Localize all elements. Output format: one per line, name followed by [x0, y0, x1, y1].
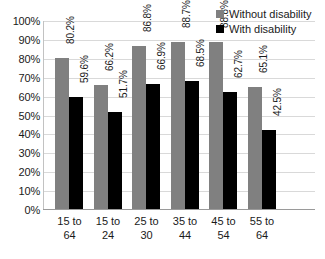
bar-value-label: 66.2%	[105, 43, 115, 71]
legend-label: With disability	[229, 24, 296, 35]
bar-value-label: 68.5%	[196, 39, 206, 67]
bar-value-label: 42.5%	[273, 88, 283, 116]
legend-swatch-icon	[216, 10, 224, 18]
bar: 66.2%	[94, 85, 108, 210]
bar: 59.6%	[69, 97, 83, 210]
x-axis: 15 to6415 to2425 to3035 to4445 to5455 to…	[43, 214, 315, 246]
bar-group: 66.2%51.7%	[94, 21, 123, 210]
bar: 62.7%	[223, 92, 237, 211]
y-tick-label: 80%	[0, 54, 40, 65]
legend-swatch-icon	[216, 25, 224, 33]
x-tick-label-line: 64	[239, 228, 285, 242]
bar-value-label: 80.2%	[66, 17, 76, 45]
bar: 65.1%	[248, 87, 262, 210]
y-tick-label: 90%	[0, 35, 40, 46]
y-tick-label: 0%	[0, 205, 40, 216]
bar: 51.7%	[108, 112, 122, 210]
bar: 80.2%	[55, 58, 69, 210]
bar-value-label: 62.7%	[234, 50, 244, 78]
bar-value-label: 86.8%	[143, 4, 153, 32]
legend-label: Without disability	[229, 9, 312, 20]
y-axis: 100%90%80%70%60%50%40%30%20%10%0%	[0, 21, 40, 210]
bar-group: 88.7%68.5%	[171, 21, 200, 210]
x-tick-label: 55 to64	[239, 214, 285, 242]
bar-value-label: 66.9%	[157, 42, 167, 70]
x-tick-label-line: 55 to	[239, 214, 285, 228]
bar-value-label: 51.7%	[119, 70, 129, 98]
y-tick-label: 40%	[0, 129, 40, 140]
caption-strip	[0, 251, 325, 259]
bar: 42.5%	[262, 130, 276, 210]
y-tick-label: 70%	[0, 73, 40, 84]
bar-group: 88.8%62.7%	[209, 21, 238, 210]
bar: 86.8%	[132, 46, 146, 210]
bar: 66.9%	[146, 84, 160, 210]
plot-area: 80.2%59.6%66.2%51.7%86.8%66.9%88.7%68.5%…	[43, 21, 315, 210]
bar-value-label: 59.6%	[80, 56, 90, 84]
x-axis-line	[43, 209, 315, 210]
y-tick-label: 100%	[0, 16, 40, 27]
bars-layer: 80.2%59.6%66.2%51.7%86.8%66.9%88.7%68.5%…	[43, 21, 315, 210]
bar-group: 80.2%59.6%	[55, 21, 84, 210]
bar: 88.8%	[209, 42, 223, 210]
legend-entry[interactable]: With disability	[216, 22, 324, 36]
bar-group: 86.8%66.9%	[132, 21, 161, 210]
bar: 88.7%	[171, 42, 185, 210]
bar-chart: 100%90%80%70%60%50%40%30%20%10%0% 80.2%5…	[0, 0, 325, 259]
legend: Without disabilityWith disability	[216, 7, 324, 37]
y-tick-label: 30%	[0, 148, 40, 159]
y-tick-label: 10%	[0, 186, 40, 197]
bar-value-label: 88.7%	[182, 1, 192, 29]
bar-value-label: 65.1%	[259, 45, 269, 73]
y-tick-label: 50%	[0, 111, 40, 122]
y-tick-label: 60%	[0, 92, 40, 103]
bar: 68.5%	[185, 81, 199, 210]
legend-entry[interactable]: Without disability	[216, 7, 324, 21]
bar-group: 65.1%42.5%	[248, 21, 277, 210]
y-tick-label: 20%	[0, 167, 40, 178]
